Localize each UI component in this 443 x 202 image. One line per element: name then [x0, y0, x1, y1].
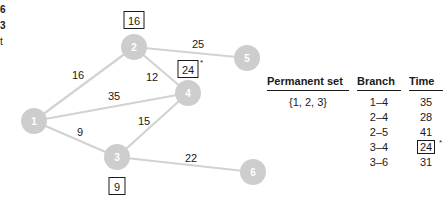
node-label: 5 [244, 53, 250, 64]
branch-cell: 1–4 [357, 96, 401, 108]
time-cell: 24 [409, 141, 443, 153]
edge-weight-label: 9 [77, 126, 83, 138]
edge-3-4 [117, 93, 188, 157]
selected-time-value: 24 [417, 140, 435, 154]
node-label: 4 [185, 88, 191, 99]
time-value: 35 [420, 96, 432, 108]
header-permanent-set: Permanent set [267, 75, 349, 91]
node-label: 2 [131, 42, 137, 53]
branch-cell: 3–6 [357, 156, 401, 168]
branch-cell: 2–5 [357, 126, 401, 138]
selected-star-marker: * [200, 58, 203, 67]
time-value: 31 [420, 156, 432, 168]
time-cell: 35 [409, 96, 443, 108]
edge-weight-label: 16 [72, 69, 84, 81]
header-branch: Branch [357, 75, 401, 91]
edge-weight-label: 25 [192, 38, 204, 50]
branch-cell: 3–4 [357, 141, 401, 153]
selected-star-marker: * [439, 138, 442, 147]
distance-value: 16 [128, 15, 140, 27]
permanent-set-value: {1, 2, 3} [267, 96, 349, 108]
distance-value: 9 [114, 181, 120, 193]
time-cell: 31 [409, 156, 443, 168]
edge-weight-label: 35 [108, 90, 120, 102]
branch-cell: 2–4 [357, 111, 401, 123]
edge-weight-label: 22 [185, 152, 197, 164]
time-cell: 41 [409, 126, 443, 138]
edge-weight-label: 15 [138, 115, 150, 127]
header-time: Time [409, 75, 443, 91]
node-label: 3 [114, 152, 120, 163]
edge-1-2 [34, 47, 134, 121]
edge-1-3 [34, 121, 117, 157]
edge-2-5 [134, 47, 247, 58]
distance-value: 24 [182, 64, 194, 76]
time-cell: 28 [409, 111, 443, 123]
time-value: 41 [420, 126, 432, 138]
time-value: 28 [420, 111, 432, 123]
node-label: 1 [31, 116, 37, 127]
node-label: 6 [250, 167, 256, 178]
edge-weight-label: 12 [146, 71, 158, 83]
